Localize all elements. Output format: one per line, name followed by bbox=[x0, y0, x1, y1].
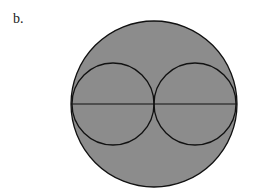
circles-diagram bbox=[0, 0, 257, 194]
